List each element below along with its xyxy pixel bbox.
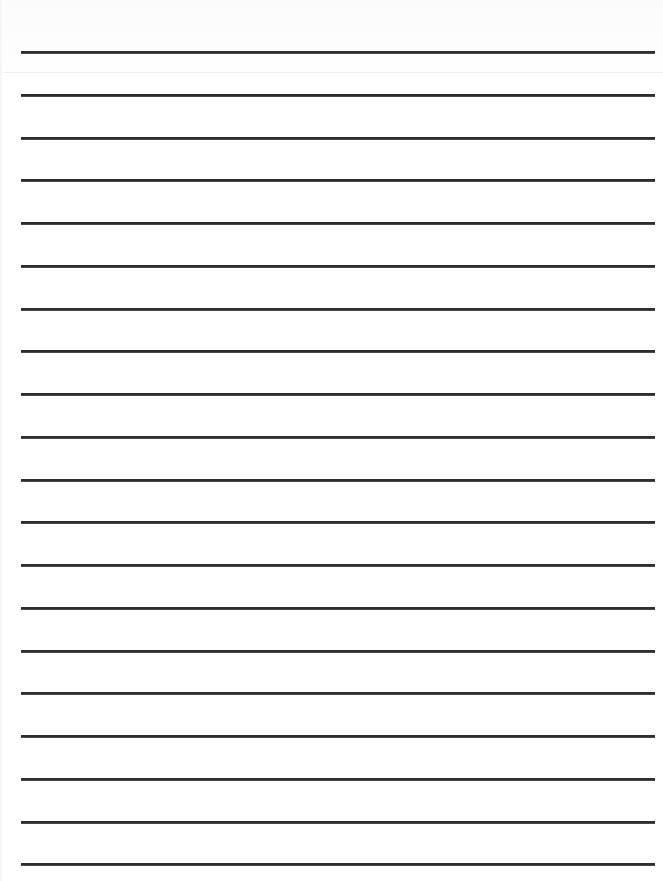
ruled-line bbox=[21, 479, 655, 482]
ruled-line bbox=[21, 564, 655, 567]
ruled-line bbox=[21, 778, 655, 781]
ruled-line bbox=[21, 650, 655, 653]
lined-paper-page bbox=[0, 0, 663, 881]
ruled-line bbox=[21, 350, 655, 353]
ruled-line bbox=[21, 137, 655, 140]
ruled-line bbox=[21, 94, 655, 97]
ruled-line bbox=[21, 521, 655, 524]
ruled-line bbox=[21, 179, 655, 182]
ruled-line bbox=[21, 692, 655, 695]
ruled-line bbox=[21, 265, 655, 268]
scan-left-edge bbox=[0, 0, 3, 881]
ruled-line bbox=[21, 863, 655, 866]
ruled-line bbox=[21, 393, 655, 396]
ruled-line bbox=[21, 51, 655, 54]
ruled-line bbox=[21, 735, 655, 738]
ruled-line bbox=[21, 308, 655, 311]
scan-top-band bbox=[0, 0, 663, 73]
ruled-line bbox=[21, 436, 655, 439]
ruled-line bbox=[21, 607, 655, 610]
ruled-line bbox=[21, 821, 655, 824]
ruled-line bbox=[21, 222, 655, 225]
